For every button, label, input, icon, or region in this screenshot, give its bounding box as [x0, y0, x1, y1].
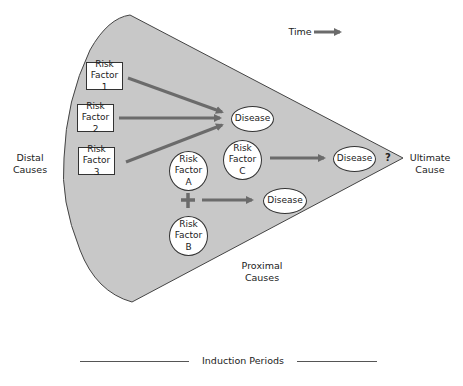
time-label: Time: [285, 26, 315, 38]
risk-factor-a-node: Risk Factor A: [169, 151, 208, 191]
risk-factor-a-line2: Factor: [175, 165, 203, 177]
unknown-mark: ?: [383, 152, 393, 164]
risk-factor-1-box: Risk Factor 1: [86, 62, 123, 90]
risk-factor-c-line3: C: [239, 166, 245, 178]
induction-line-left: [80, 361, 189, 362]
proximal-line1: Proximal: [237, 260, 287, 272]
disease-3-node: Disease: [263, 188, 307, 214]
distal-causes-label: Distal Causes: [10, 152, 50, 176]
ultimate-line2: Cause: [405, 164, 455, 176]
proximal-line2: Causes: [237, 272, 287, 284]
disease-1-label: Disease: [235, 113, 270, 125]
risk-factor-b-line3: B: [185, 242, 191, 254]
risk-factor-2-line2: Factor 2: [78, 112, 113, 135]
risk-factor-1-line2: Factor 1: [87, 70, 122, 93]
risk-factor-c-line1: Risk: [233, 143, 252, 155]
risk-factor-3-box: Risk Factor 3: [78, 147, 115, 175]
risk-factor-c-line2: Factor: [229, 154, 257, 166]
risk-factor-b-line2: Factor: [175, 230, 203, 242]
induction-periods-label: Induction Periods: [193, 355, 293, 367]
risk-factor-3-line1: Risk: [87, 144, 106, 156]
ultimate-cause-label: Ultimate Cause: [405, 152, 455, 176]
risk-factor-a-line3: A: [185, 177, 191, 189]
risk-factor-1-line1: Risk: [95, 59, 114, 71]
proximal-causes-label: Proximal Causes: [237, 260, 287, 284]
risk-factor-3-line2: Factor 3: [79, 155, 114, 178]
diagram-canvas: [0, 0, 463, 386]
distal-line1: Distal: [10, 152, 50, 164]
ultimate-line1: Ultimate: [405, 152, 455, 164]
distal-line2: Causes: [10, 164, 50, 176]
risk-factor-c-node: Risk Factor C: [223, 140, 262, 180]
risk-factor-b-line1: Risk: [179, 219, 198, 231]
risk-factor-b-node: Risk Factor B: [169, 216, 208, 256]
risk-factor-2-line1: Risk: [86, 101, 105, 113]
risk-factor-a-line1: Risk: [179, 154, 198, 166]
disease-3-label: Disease: [267, 195, 302, 207]
disease-2-label: Disease: [337, 153, 372, 165]
induction-line-right: [297, 361, 377, 362]
risk-factor-2-box: Risk Factor 2: [77, 104, 114, 132]
disease-1-node: Disease: [231, 106, 274, 132]
disease-2-node: Disease: [333, 146, 376, 172]
